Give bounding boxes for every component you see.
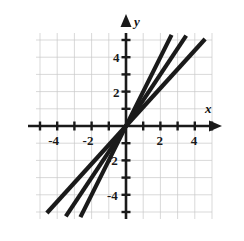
x-axis-label: x [205,102,212,115]
y-tick-label: -2 [107,154,118,167]
graph-canvas [0,0,244,241]
x-tick-label: 2 [156,134,163,147]
coordinate-plane-graph: -4-22442-2-4 x y [0,0,244,241]
x-tick-label: -2 [83,134,94,147]
y-tick-label: -4 [107,189,118,202]
y-tick-label: 2 [113,86,120,99]
y-axis-arrowhead [121,14,132,27]
x-tick-label: 4 [191,134,198,147]
y-axis-label: y [134,15,140,28]
y-tick-label: 4 [113,51,120,64]
x-tick-label: -4 [48,134,59,147]
